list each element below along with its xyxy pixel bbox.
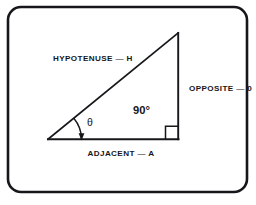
hypotenuse-label: HYPOTENUSE — H [53, 54, 133, 63]
page-background [0, 0, 256, 205]
right-angle-label: 90° [133, 104, 150, 116]
theta-angle-label: θ [87, 116, 93, 128]
adjacent-label: ADJACENT — A [87, 149, 154, 158]
figure-root: HYPOTENUSE — H OPPOSITE — 0 ADJACENT — A… [0, 0, 256, 205]
opposite-label: OPPOSITE — 0 [189, 84, 252, 93]
right-triangle-diagram: HYPOTENUSE — H OPPOSITE — 0 ADJACENT — A… [0, 0, 256, 205]
